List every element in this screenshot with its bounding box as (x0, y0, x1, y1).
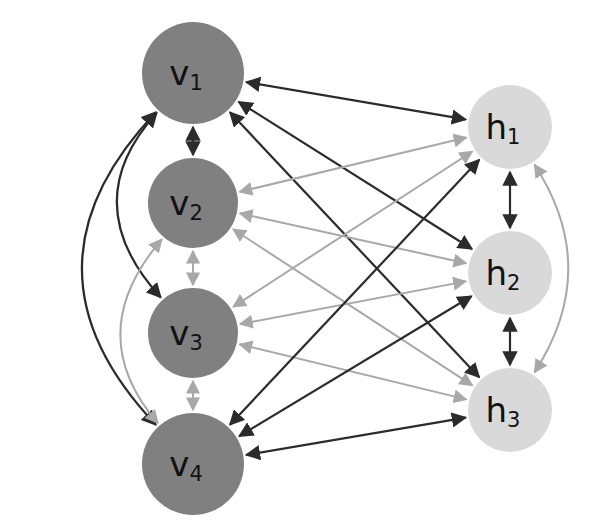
node-v2[interactable]: v2 (148, 158, 238, 248)
node-v1[interactable]: v1 (142, 22, 244, 124)
edge-v4-h3 (246, 418, 465, 455)
edge-v1-h1 (246, 82, 465, 119)
diagram-canvas: v1v2v3v4h1h2h3 (0, 0, 613, 529)
node-h1[interactable]: h1 (468, 85, 552, 169)
node-circle-h3 (468, 368, 552, 452)
edge-v1-h3 (230, 112, 479, 377)
node-layer: v1v2v3v4h1h2h3 (142, 22, 552, 515)
edge-v3-h3 (240, 344, 467, 399)
edge-v4-h1 (230, 160, 479, 425)
edge-v1-v4 (82, 112, 156, 425)
node-circle-h1 (468, 85, 552, 169)
edge-v3-h2 (240, 281, 466, 324)
node-circle-v3 (148, 288, 238, 378)
node-h3[interactable]: h3 (468, 368, 552, 452)
node-v4[interactable]: v4 (142, 413, 244, 515)
node-circle-v2 (148, 158, 238, 248)
graph-svg: v1v2v3v4h1h2h3 (0, 0, 613, 529)
node-h2[interactable]: h2 (468, 231, 552, 315)
node-v3[interactable]: v3 (148, 288, 238, 378)
node-circle-v1 (142, 22, 244, 124)
edge-v2-h1 (240, 137, 467, 191)
node-circle-h2 (468, 231, 552, 315)
edge-v2-h3 (233, 229, 472, 385)
node-circle-v4 (142, 413, 244, 515)
